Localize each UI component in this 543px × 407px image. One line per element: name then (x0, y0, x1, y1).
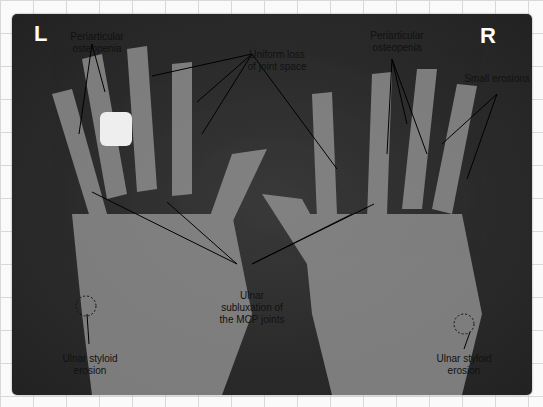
label-ulnar-styloid-erosion-left: Ulnar styloid erosion (50, 353, 130, 377)
label-line: Periarticular (357, 30, 437, 42)
left-hand-marker: L (34, 21, 47, 47)
label-line: osteopenia (357, 42, 437, 54)
xray-image: L R Periarticular osteopenia Uniform los… (12, 14, 532, 395)
label-ulnar-subluxation-mcp: Ulnar subluxation of the MCP joints (207, 290, 297, 326)
label-periarticular-osteopenia-left: Periarticular osteopenia (57, 31, 137, 55)
label-line: Ulnar styloid (424, 353, 504, 365)
label-line: the MCP joints (207, 314, 297, 326)
label-line: Uniform loss (232, 49, 322, 61)
right-hand-marker: R (480, 23, 496, 49)
label-line: osteopenia (57, 43, 137, 55)
label-ulnar-styloid-erosion-right: Ulnar styloid erosion (424, 353, 504, 377)
label-line: Ulnar styloid (50, 353, 130, 365)
label-periarticular-osteopenia-right: Periarticular osteopenia (357, 30, 437, 54)
label-line: erosion (50, 365, 130, 377)
label-line: of joint space (232, 61, 322, 73)
label-small-erosions: Small erosions (462, 73, 532, 85)
label-line: erosion (424, 365, 504, 377)
label-line: Periarticular (57, 31, 137, 43)
label-line: subluxation of (207, 302, 297, 314)
label-uniform-loss-joint-space: Uniform loss of joint space (232, 49, 322, 73)
label-line: Ulnar (207, 290, 297, 302)
